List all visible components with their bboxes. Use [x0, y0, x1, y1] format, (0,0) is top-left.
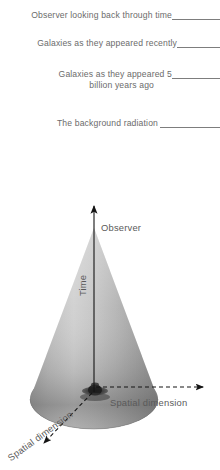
light-cone-figure: Observer looking back through time Galax…	[0, 0, 220, 470]
diagram-label-spatial-dimension-horizontal: Spatial dimension	[110, 397, 187, 408]
diagram-label-observer: Observer	[101, 222, 141, 233]
diagram-label-time: Time	[77, 275, 88, 296]
